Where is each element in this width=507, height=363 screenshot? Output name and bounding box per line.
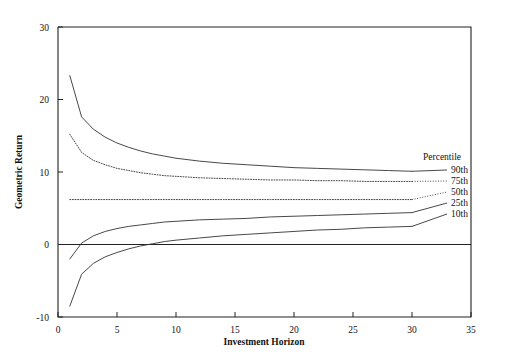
x-tick-label: 25 xyxy=(348,325,358,335)
x-tick-label: 0 xyxy=(56,325,61,335)
y-tick-label: 10 xyxy=(40,168,50,178)
x-tick-label: 15 xyxy=(230,325,240,335)
y-tick-label: 20 xyxy=(40,95,50,105)
x-tick-label: 10 xyxy=(171,325,181,335)
geometric-return-line-chart: 05101520253035 -100102030 Investment Hor… xyxy=(0,0,507,363)
x-axis-title: Investment Horizon xyxy=(223,337,305,347)
legend-label-50th: 50th xyxy=(451,187,468,197)
x-tick-label: 20 xyxy=(289,325,299,335)
legend-label-10th: 10th xyxy=(451,209,468,219)
x-tick-label: 30 xyxy=(407,325,417,335)
legend-entries: 90th75th50th25th10th xyxy=(451,165,468,219)
y-tick-label: 0 xyxy=(44,240,49,250)
x-tick-label: 5 xyxy=(115,325,120,335)
y-axis-title: Geometric Return xyxy=(14,134,24,209)
legend-label-90th: 90th xyxy=(451,165,468,175)
chart-figure: 05101520253035 -100102030 Investment Hor… xyxy=(0,0,507,363)
y-tick-label: -10 xyxy=(36,313,49,323)
legend-title: Percentile xyxy=(423,152,461,162)
y-tick-label: 30 xyxy=(40,23,50,33)
legend-label-25th: 25th xyxy=(451,198,468,208)
legend-label-75th: 75th xyxy=(451,176,468,186)
x-tick-label: 35 xyxy=(466,325,476,335)
